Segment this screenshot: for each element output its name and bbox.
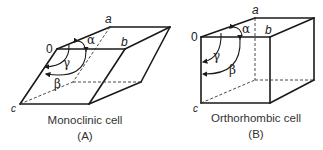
panel-label-b: (B) — [206, 128, 306, 141]
beta-label-b: β — [229, 64, 236, 76]
edge-right-back — [141, 27, 170, 82]
gamma-label-b: γ — [213, 50, 220, 62]
alpha-arc — [78, 41, 85, 48]
caption-orthorhombic: Orthorhombic cell — [206, 112, 306, 125]
edge-bottom-right — [270, 80, 314, 103]
alpha-label-a: α — [87, 34, 95, 46]
vertex-a-label-b: a — [252, 4, 259, 16]
hidden-edge-c-back — [201, 80, 255, 103]
vertex-a-label-a: a — [105, 13, 112, 25]
vertex-b-label-b: b — [265, 24, 272, 36]
edge-b-top-corner — [125, 27, 170, 49]
alpha-label-b: α — [242, 23, 250, 35]
origin-label-b: 0 — [191, 31, 198, 43]
alpha-arc — [234, 27, 242, 36]
edge-0-a — [57, 27, 110, 49]
edge-0-c — [20, 49, 57, 104]
beta-label-a: β — [54, 78, 61, 90]
vertex-c-label-a: c — [11, 103, 16, 115]
caption-monoclinic: Monoclinic cell — [45, 114, 125, 127]
edge-b-top-corner — [270, 18, 314, 37]
gamma-label-a: γ — [63, 57, 70, 69]
origin-label-a: 0 — [46, 43, 53, 55]
vertex-b-label-a: b — [121, 36, 128, 48]
panel-label-a: (A) — [45, 130, 125, 143]
vertex-c-label-b: c — [193, 103, 198, 115]
